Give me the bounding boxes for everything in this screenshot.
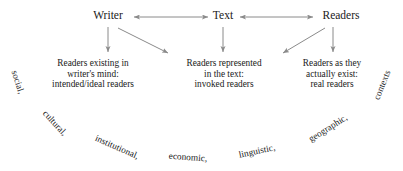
- node-writer: Writer: [93, 9, 123, 22]
- description-line-1: Readers represented: [186, 58, 261, 69]
- description-line-2: writer's mind:: [52, 69, 134, 80]
- description-real-readers: Readers as they actually exist: real rea…: [303, 58, 361, 90]
- context-word-geographic: geographic,: [307, 112, 349, 144]
- description-line-3: intended/ideal readers: [52, 79, 134, 90]
- node-text: Text: [213, 9, 233, 22]
- context-word-contexts: contexts: [372, 69, 393, 101]
- context-word-cultural: cultural,: [41, 108, 69, 137]
- context-word-linguistic: linguistic,: [238, 142, 276, 159]
- context-word-institutional: institutional,: [94, 133, 141, 161]
- connector-readers-diagonal: [283, 28, 325, 53]
- description-line-3: real readers: [303, 79, 361, 90]
- description-line-1: Readers existing in: [52, 58, 134, 69]
- description-invoked-readers: Readers represented in the text: invoked…: [186, 58, 261, 90]
- description-line-3: invoked readers: [186, 79, 261, 90]
- context-word-economic: economic,: [168, 151, 207, 164]
- description-line-2: in the text:: [186, 69, 261, 80]
- node-readers: Readers: [322, 9, 359, 22]
- description-intended-ideal-readers: Readers existing in writer's mind: inten…: [52, 58, 134, 90]
- context-word-social: social,: [10, 69, 27, 95]
- description-line-2: actually exist:: [303, 69, 361, 80]
- writer-text-readers-diagram: Writer Text Readers Readers existing in …: [0, 0, 403, 171]
- connector-writer-diagonal: [118, 28, 168, 53]
- description-line-1: Readers as they: [303, 58, 361, 69]
